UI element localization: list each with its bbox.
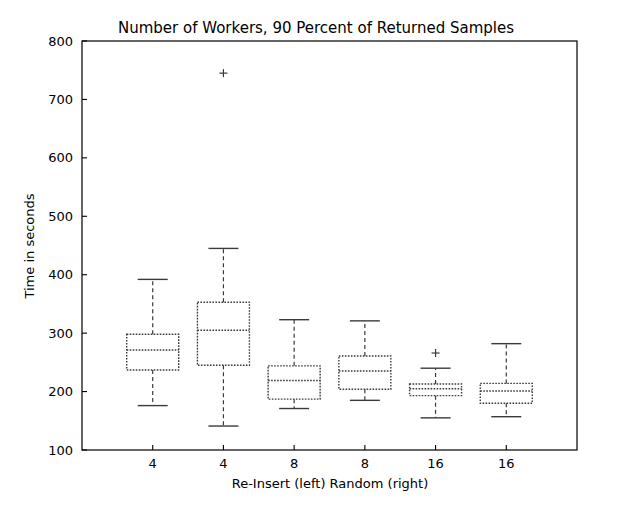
boxplot-box — [339, 321, 391, 400]
boxplot-box — [410, 349, 462, 418]
plot-frame — [82, 41, 577, 450]
box-rect — [339, 356, 391, 389]
y-tick-label: 300 — [48, 326, 73, 341]
boxplot-box — [480, 344, 532, 417]
figure-canvas: Number of Workers, 90 Percent of Returne… — [0, 0, 619, 512]
boxplot-series — [127, 69, 533, 426]
box-rect — [127, 334, 179, 370]
y-tick-label: 400 — [48, 267, 73, 282]
x-axis-label: Re-Insert (left) Random (right) — [232, 476, 429, 491]
box-rect — [410, 384, 462, 396]
box-rect — [197, 302, 249, 365]
y-axis: 100200300400500600700800 — [48, 34, 87, 458]
x-tick-label: 16 — [498, 456, 515, 471]
x-tick-label: 8 — [361, 456, 369, 471]
chart-title: Number of Workers, 90 Percent of Returne… — [118, 19, 514, 37]
boxplot-chart: Number of Workers, 90 Percent of Returne… — [0, 0, 619, 512]
x-tick-label: 16 — [427, 456, 444, 471]
box-rect — [268, 366, 320, 399]
x-tick-label: 4 — [149, 456, 157, 471]
x-axis: 44881616 — [149, 445, 515, 471]
box-rect — [480, 383, 532, 403]
x-tick-label: 8 — [290, 456, 298, 471]
boxplot-box — [268, 320, 320, 409]
y-tick-label: 700 — [48, 92, 73, 107]
y-tick-label: 800 — [48, 34, 73, 49]
x-tick-label: 4 — [219, 456, 227, 471]
y-axis-label: Time in seconds — [22, 193, 37, 299]
boxplot-box — [197, 69, 249, 426]
y-tick-label: 500 — [48, 209, 73, 224]
y-tick-label: 600 — [48, 150, 73, 165]
y-tick-label: 200 — [48, 384, 73, 399]
boxplot-box — [127, 279, 179, 405]
y-tick-label: 100 — [48, 443, 73, 458]
